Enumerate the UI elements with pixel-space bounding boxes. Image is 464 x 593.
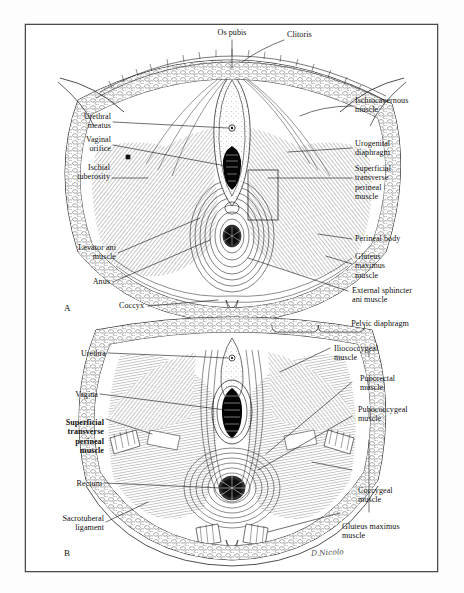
label-sacrotuberal-ligament: Sacrotuberal ligament bbox=[28, 514, 104, 533]
label-os-pubis: Os pubis bbox=[198, 28, 266, 37]
label-external-sphincter-ani-muscle: External sphincter ani muscle bbox=[352, 286, 412, 305]
label-superficial-transverse-perineal-muscle-b: Superficial transverse perineal muscle bbox=[24, 418, 104, 456]
label-gluteus-maximus-muscle: Gluteus maximus muscle bbox=[355, 252, 385, 280]
artist-signature: D.Nicolo bbox=[311, 547, 344, 558]
label-ischial-tuberosity: Ischial tuberosity bbox=[30, 163, 110, 182]
label-coccyx: Coccyx bbox=[96, 301, 144, 310]
label-levator-ani-muscle: Levator ani muscle bbox=[34, 243, 116, 262]
label-vaginal-orifice: Vaginal orifice bbox=[33, 135, 111, 154]
label-puborectal-muscle: Puborectal muscle bbox=[360, 374, 395, 393]
label-superficial-transverse-perineal-muscle: Superficial transverse perineal muscle bbox=[355, 164, 391, 202]
label-iliococcygeal-muscle: Iliococcygeal muscle bbox=[334, 344, 378, 363]
label-perineal-body: Perineal body bbox=[355, 234, 400, 243]
panel-b-letter: B bbox=[64, 548, 70, 558]
label-clitoris: Clitoris bbox=[287, 30, 312, 39]
label-coccygeal-muscle: Coccygeal muscle bbox=[358, 486, 393, 505]
label-urethral-meatus: Urethral meatus bbox=[33, 112, 111, 131]
label-ischiocavernous-muscle: Ischiocavernous muscle bbox=[355, 96, 408, 115]
label-vagina: Vagina bbox=[44, 390, 98, 399]
label-urogenital-diaphragm: Urogenital diaphragm bbox=[355, 139, 390, 158]
label-urethra: Urethra bbox=[46, 349, 106, 358]
label-gluteus-maximus-muscle-b: Gluteus maximus muscle bbox=[342, 522, 400, 541]
label-pubococcygeal-muscle: Pubococcygeal muscle bbox=[358, 405, 408, 424]
label-anus: Anus bbox=[62, 277, 110, 286]
label-rectum: Rectum bbox=[48, 479, 102, 488]
panel-a-letter: A bbox=[64, 303, 71, 313]
label-pelvic-diaphragm: Pelvic diaphragm bbox=[326, 319, 434, 328]
anatomy-plate: Os pubis Clitoris Urethral meatus Vagina… bbox=[0, 0, 464, 593]
